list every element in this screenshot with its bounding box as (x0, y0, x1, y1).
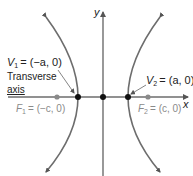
transverse-axis-label: Transverse (7, 71, 57, 82)
f1-label: F1= (−c, 0) (16, 103, 65, 115)
v1-pointer-arrow (58, 70, 74, 93)
transverse-axis-label-2: axis (7, 84, 25, 95)
f2-label: F2= (c, 0) (138, 103, 181, 115)
hyperbola-left-branch (46, 17, 78, 172)
v1-label: V1= (−a, 0) (7, 56, 62, 69)
y-axis-label: y (93, 6, 101, 18)
hyperbola-right-branch (128, 17, 160, 172)
x-axis-label: x (182, 98, 189, 110)
hyperbola-diagram: y x V1= (−a, 0) Transverse axis V2= (a, … (0, 0, 193, 176)
vertex-v2-point (125, 94, 131, 100)
focus-f1-point (54, 94, 59, 99)
v2-label: V2= (a, 0) (146, 74, 193, 87)
center-point (100, 94, 106, 100)
vertex-v1-point (75, 94, 81, 100)
v2-pointer-arrow (131, 85, 146, 94)
focus-f2-point (145, 94, 150, 99)
